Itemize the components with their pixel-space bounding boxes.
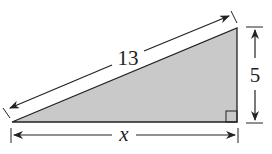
base-dimension: x: [11, 122, 238, 146]
right-triangle-diagram: 13 5 x: [0, 0, 272, 154]
hypotenuse-label: 13: [118, 46, 139, 70]
triangle-shape: [12, 28, 237, 122]
base-label: x: [118, 122, 129, 146]
height-label: 5: [250, 63, 261, 87]
height-dimension: 5: [246, 27, 263, 123]
